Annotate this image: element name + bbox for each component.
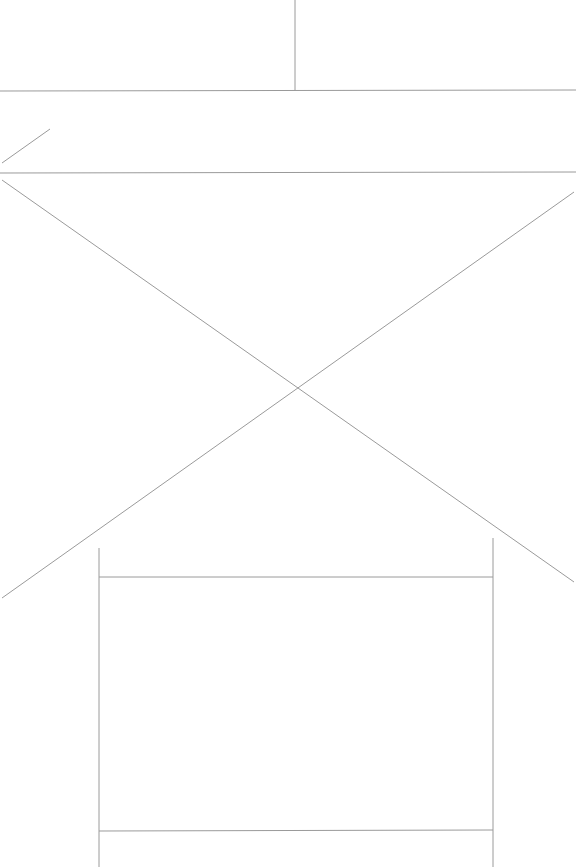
image-placeholder-diagonal-2 (2, 192, 574, 598)
card-bottom-rule (99, 830, 493, 831)
wireframe-canvas (0, 0, 576, 867)
image-placeholder-diagonal-1 (2, 180, 574, 582)
nav-icon-stroke (2, 129, 50, 163)
wireframe-drawing (0, 0, 576, 867)
header-bottom-rule (0, 90, 576, 91)
nav-bottom-rule (0, 172, 576, 173)
